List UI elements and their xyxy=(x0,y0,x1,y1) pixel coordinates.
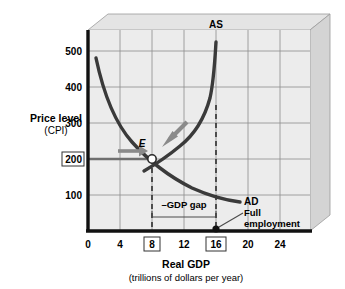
x-tick-label-12: 12 xyxy=(178,239,190,250)
curve-label-ad: AD xyxy=(244,196,258,207)
x-tick-label-16: 16 xyxy=(210,239,222,250)
chart-figure: E –GDP gap AD AS Full employment 100 200… xyxy=(0,0,345,289)
full-employment-label-line1: Full xyxy=(244,207,261,218)
x-tick-label-24: 24 xyxy=(274,239,286,250)
x-axis-title: Real GDP xyxy=(162,258,210,270)
panel-right-face xyxy=(310,14,330,231)
y-tick-label-500: 500 xyxy=(65,46,82,57)
x-tick-label-4: 4 xyxy=(117,239,123,250)
curve-label-as: AS xyxy=(209,19,223,30)
y-tick-label-200: 200 xyxy=(65,154,82,165)
x-tick-label-0: 0 xyxy=(85,239,91,250)
x-tick-label-8: 8 xyxy=(149,239,155,250)
x-tick-label-20: 20 xyxy=(242,239,254,250)
equilibrium-label: E xyxy=(139,138,146,149)
y-axis-subtitle: (CPI) xyxy=(44,125,67,136)
y-axis-title: Price level xyxy=(30,112,82,124)
gdp-gap-label: –GDP gap xyxy=(161,199,206,210)
chart-svg: E –GDP gap AD AS Full employment 100 200… xyxy=(0,0,345,289)
y-tick-label-100: 100 xyxy=(65,190,82,201)
full-employment-label-line2: employment xyxy=(244,218,301,229)
equilibrium-point-marker xyxy=(148,155,156,163)
y-tick-label-400: 400 xyxy=(65,82,82,93)
x-axis-subtitle: (trillions of dollars per year) xyxy=(129,272,244,283)
